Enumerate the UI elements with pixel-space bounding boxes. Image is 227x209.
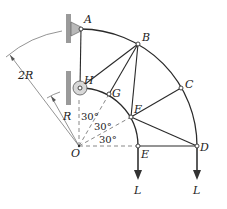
label-g: G	[112, 87, 121, 100]
label-f: F	[133, 103, 142, 116]
truss-diagram: 2R R L L A B C D E F G H O 30° 30° 30°	[0, 0, 227, 209]
label-e: E	[140, 148, 149, 161]
angle-label-bottom: 30°	[99, 134, 117, 145]
load-label-e: L	[133, 184, 141, 197]
joint-e	[136, 144, 140, 148]
load-label-d: L	[192, 184, 200, 197]
arrowhead-r	[51, 96, 56, 102]
joint-a	[79, 27, 83, 31]
arrowhead-load-d	[193, 170, 201, 180]
dimension-label-r: R	[62, 110, 71, 123]
label-c: C	[185, 78, 194, 91]
member-fd	[131, 117, 197, 146]
label-o: O	[71, 147, 80, 160]
joint-h	[78, 86, 82, 90]
dimension-arc-r	[47, 92, 60, 98]
wall-support-lower	[66, 71, 71, 105]
angle-label-middle: 30°	[94, 121, 112, 132]
joint-f	[129, 115, 133, 119]
label-b: B	[141, 31, 150, 44]
dimension-arc-2r	[6, 31, 62, 57]
member-ah	[80, 29, 81, 88]
joint-c	[179, 86, 183, 90]
joint-g	[107, 92, 111, 96]
arrowhead-load-e	[134, 170, 142, 180]
label-h: H	[83, 74, 94, 87]
joint-b	[136, 42, 140, 46]
joint-d	[195, 144, 199, 148]
label-a: A	[83, 13, 92, 26]
label-d: D	[199, 141, 209, 154]
dimension-label-2r: 2R	[17, 69, 33, 82]
wall-support-upper	[66, 14, 71, 43]
